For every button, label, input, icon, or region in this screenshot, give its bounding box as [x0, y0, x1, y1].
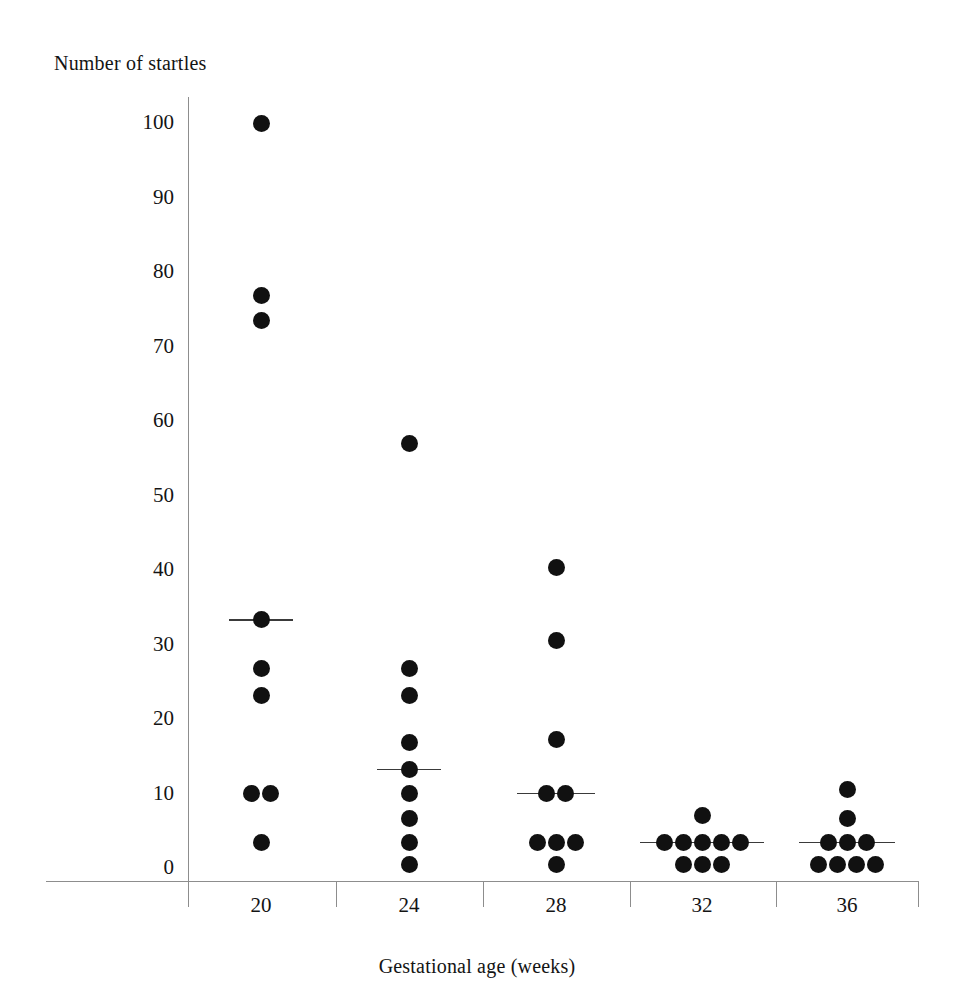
- data-point: [839, 834, 856, 851]
- data-point: [401, 734, 418, 751]
- x-axis-tick-label: 36: [787, 893, 907, 918]
- y-axis-line: [188, 97, 189, 905]
- data-point: [713, 856, 730, 873]
- data-point: [253, 611, 270, 628]
- data-point: [253, 660, 270, 677]
- y-axis-tick-label: 90: [120, 187, 174, 208]
- data-point: [867, 856, 884, 873]
- data-point: [529, 834, 546, 851]
- y-axis-tick-label: 30: [120, 634, 174, 655]
- y-axis-tick-label: 0: [120, 857, 174, 878]
- data-point: [548, 834, 565, 851]
- x-axis-tick-mark: [776, 881, 777, 907]
- data-point: [401, 435, 418, 452]
- chart-container: Number of startles 100908070605040302010…: [0, 0, 954, 1008]
- data-point: [848, 856, 865, 873]
- x-axis-tick-mark: [336, 881, 337, 907]
- data-point: [401, 687, 418, 704]
- data-point: [401, 810, 418, 827]
- data-point: [858, 834, 875, 851]
- data-point: [694, 834, 711, 851]
- y-axis-tick-label: 60: [120, 410, 174, 431]
- x-axis-tick-label: 24: [349, 893, 469, 918]
- data-point: [253, 312, 270, 329]
- data-point: [713, 834, 730, 851]
- data-point: [675, 856, 692, 873]
- data-point: [829, 856, 846, 873]
- y-axis-tick-labels: 1009080706050403020100: [120, 0, 174, 1008]
- data-point: [548, 731, 565, 748]
- data-point: [548, 559, 565, 576]
- x-axis-tick-label: 28: [496, 893, 616, 918]
- data-point: [401, 856, 418, 873]
- y-axis-tick-label: 20: [120, 708, 174, 729]
- data-point: [401, 785, 418, 802]
- x-axis-title: Gestational age (weeks): [0, 955, 954, 978]
- data-point: [548, 632, 565, 649]
- x-axis-tick-mark: [918, 881, 919, 907]
- data-point: [401, 660, 418, 677]
- data-point: [253, 287, 270, 304]
- data-point: [253, 115, 270, 132]
- data-point: [557, 785, 574, 802]
- data-point: [839, 810, 856, 827]
- data-point: [810, 856, 827, 873]
- x-axis-tick-mark: [483, 881, 484, 907]
- x-axis-line: [46, 881, 918, 882]
- y-axis-tick-label: 80: [120, 261, 174, 282]
- data-point: [675, 834, 692, 851]
- data-point: [567, 834, 584, 851]
- y-axis-tick-label: 50: [120, 485, 174, 506]
- x-axis-tick-mark: [188, 881, 189, 907]
- data-point: [262, 785, 279, 802]
- data-point: [694, 856, 711, 873]
- x-axis-tick-label: 20: [201, 893, 321, 918]
- data-point: [538, 785, 555, 802]
- data-point: [401, 761, 418, 778]
- x-axis-tick-mark: [630, 881, 631, 907]
- data-point: [694, 807, 711, 824]
- data-point: [732, 834, 749, 851]
- y-axis-tick-label: 10: [120, 783, 174, 804]
- data-point: [253, 834, 270, 851]
- y-axis-tick-label: 100: [120, 112, 174, 133]
- data-point: [656, 834, 673, 851]
- y-axis-tick-label: 40: [120, 559, 174, 580]
- data-point: [243, 785, 260, 802]
- y-axis-tick-label: 70: [120, 336, 174, 357]
- data-point: [548, 856, 565, 873]
- x-axis-tick-label: 32: [642, 893, 762, 918]
- data-point: [820, 834, 837, 851]
- median-line: [517, 793, 595, 795]
- data-point: [253, 687, 270, 704]
- data-point: [401, 834, 418, 851]
- data-point: [839, 781, 856, 798]
